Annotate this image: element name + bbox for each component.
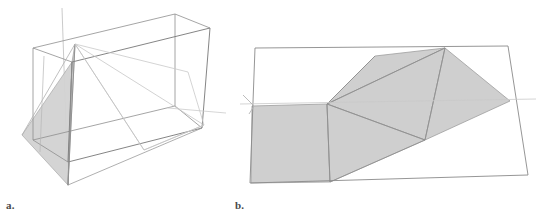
crease-fold-to-right-a <box>144 125 204 150</box>
inscribed-polygon-a <box>75 44 204 150</box>
panel-label-a: a. <box>6 200 15 211</box>
shaded-square-b <box>251 104 330 183</box>
ray-line-a <box>168 108 226 113</box>
box-edge-top-right-a <box>175 14 210 28</box>
figure-container: a. b. <box>0 0 544 219</box>
shaded-face-a <box>22 62 72 185</box>
panel-label-b: b. <box>235 200 244 211</box>
panel-a-drawing <box>22 8 226 186</box>
crease-apex-to-right-a <box>75 44 204 125</box>
crease-apex-to-fold-a <box>75 44 144 150</box>
geometry-figure <box>0 0 544 219</box>
panel-b-drawing <box>240 46 536 183</box>
